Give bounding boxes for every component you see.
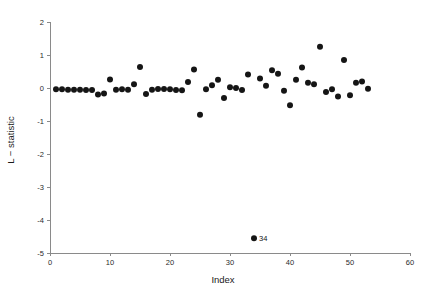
data-points-layer <box>53 44 371 241</box>
y-tick-label: -5 <box>37 249 44 258</box>
data-point <box>281 88 287 94</box>
data-point <box>155 86 161 92</box>
y-axis: 210-1-2-3-4-5 <box>37 18 50 258</box>
data-point <box>227 84 233 90</box>
data-point <box>65 87 71 93</box>
data-point <box>263 83 269 89</box>
x-tick-label: 0 <box>48 258 52 267</box>
data-point <box>233 85 239 91</box>
data-point <box>173 87 179 93</box>
data-point <box>287 102 293 108</box>
data-point <box>185 79 191 85</box>
data-point <box>293 77 299 83</box>
data-point <box>257 75 263 81</box>
x-tick-label: 40 <box>286 258 294 267</box>
scatter-plot-figure: 210-1-2-3-4-5 0102030405060 34 Index L −… <box>0 0 446 291</box>
data-point <box>179 87 185 93</box>
point-annotation-label: 34 <box>259 234 267 243</box>
x-axis: 0102030405060 <box>48 253 414 267</box>
data-point <box>311 81 317 87</box>
data-point <box>215 77 221 83</box>
y-tick-label: -3 <box>37 183 44 192</box>
y-tick-label: -1 <box>37 117 44 126</box>
data-point <box>53 86 59 92</box>
plot-canvas: 210-1-2-3-4-5 0102030405060 34 Index L −… <box>0 0 446 291</box>
y-tick-label: 1 <box>40 51 44 60</box>
x-tick-label: 50 <box>346 258 354 267</box>
data-point <box>359 78 365 84</box>
y-tick-label: -4 <box>37 216 44 225</box>
x-axis-title: Index <box>211 274 234 285</box>
data-point <box>161 86 167 92</box>
data-point <box>341 57 347 63</box>
data-point <box>143 91 149 97</box>
data-point <box>107 76 113 82</box>
data-point <box>221 95 227 101</box>
data-point <box>77 87 83 93</box>
data-point <box>89 87 95 93</box>
data-point <box>167 86 173 92</box>
data-point <box>317 44 323 50</box>
data-point <box>353 80 359 86</box>
data-point <box>59 86 65 92</box>
data-point <box>365 86 371 92</box>
data-point <box>335 94 341 100</box>
y-tick-label: 0 <box>40 84 44 93</box>
y-axis-title: L − statistic <box>5 116 16 164</box>
data-point <box>125 87 131 93</box>
x-tick-label: 60 <box>406 258 414 267</box>
y-tick-label: 2 <box>40 18 44 27</box>
data-point <box>239 87 245 93</box>
data-point <box>203 86 209 92</box>
data-point <box>131 81 137 87</box>
x-tick-label: 10 <box>106 258 114 267</box>
data-point <box>305 80 311 86</box>
data-point <box>71 87 77 93</box>
data-point <box>209 82 215 88</box>
y-tick-label: -2 <box>37 150 44 159</box>
data-point <box>101 91 107 97</box>
data-point <box>83 87 89 93</box>
data-point <box>197 112 203 118</box>
data-point <box>95 92 101 98</box>
data-point <box>137 64 143 70</box>
data-point <box>149 87 155 93</box>
data-point <box>113 87 119 93</box>
data-point <box>347 92 353 98</box>
data-point <box>329 86 335 92</box>
x-tick-label: 20 <box>166 258 174 267</box>
data-point <box>275 71 281 77</box>
data-point <box>191 67 197 73</box>
data-point <box>251 235 257 241</box>
x-tick-label: 30 <box>226 258 234 267</box>
data-point <box>269 67 275 73</box>
data-point <box>119 86 125 92</box>
data-point <box>245 71 251 77</box>
data-point <box>299 65 305 71</box>
annotations-layer: 34 <box>259 234 267 243</box>
data-point <box>323 89 329 95</box>
